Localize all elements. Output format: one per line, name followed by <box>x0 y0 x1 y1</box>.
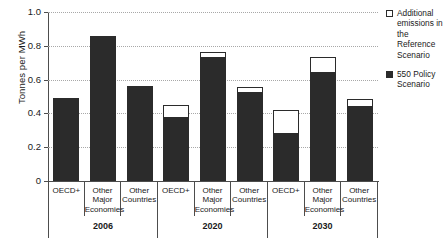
emissions-intensity-chart: Tonnes per MWh 00.20.40.60.81.0 OECD+Oth… <box>0 0 448 238</box>
bar-2020-other-major-economies <box>200 52 226 181</box>
category-label-oecd-: OECD+ <box>268 182 305 216</box>
plot-area: 00.20.40.60.81.0 <box>48 12 378 181</box>
bar-segment-additional <box>163 105 189 119</box>
bar-segment-additional <box>273 110 299 134</box>
bar-2006-oecd- <box>53 98 79 181</box>
category-label-other-countries: Other Countries <box>341 182 378 216</box>
period-label-2020: 2020 <box>158 216 268 238</box>
legend-label: 550 Policy Scenario <box>397 69 448 90</box>
category-label-oecd-: OECD+ <box>158 182 195 216</box>
bar-segment-policy <box>237 93 263 181</box>
bar-segment-policy <box>53 98 79 181</box>
bar-2030-other-major-economies <box>310 57 336 181</box>
bar-segment-policy <box>310 73 336 181</box>
y-tick-label: 0 <box>36 176 41 186</box>
y-tick-label: 1.0 <box>28 7 41 17</box>
bar-segment-policy <box>90 36 116 181</box>
category-label-oecd-: OECD+ <box>48 182 85 216</box>
bar-2006-other-countries <box>127 86 153 181</box>
tick-mark <box>44 147 48 148</box>
category-label-other-major-economies: Other Major Economies <box>85 182 122 216</box>
y-axis-title: Tonnes per MWh <box>16 3 27 133</box>
tick-mark <box>44 12 48 13</box>
bar-segment-policy <box>163 118 189 181</box>
category-label-other-major-economies: Other Major Economies <box>195 182 232 216</box>
bar-segment-additional <box>310 57 336 73</box>
y-tick-label: 0.8 <box>28 41 41 51</box>
bar-segment-policy <box>347 107 373 181</box>
bar-segment-additional <box>200 52 226 59</box>
legend-swatch-icon <box>386 10 393 17</box>
legend-item-additional-emissions: Additional emissions in the Reference Sc… <box>386 8 448 60</box>
bar-2030-other-countries <box>347 99 373 181</box>
chart-legend: Additional emissions in the Reference Sc… <box>386 8 448 99</box>
y-tick-label: 0.4 <box>28 109 41 119</box>
category-label-other-major-economies: Other Major Economies <box>305 182 342 216</box>
bar-2020-other-countries <box>237 87 263 181</box>
legend-item-policy-scenario: 550 Policy Scenario <box>386 69 448 90</box>
y-tick-label: 0.2 <box>28 142 41 152</box>
period-label-2030: 2030 <box>268 216 378 238</box>
gridline <box>48 12 378 13</box>
bar-segment-additional <box>347 99 373 107</box>
tick-mark <box>44 113 48 114</box>
bar-segment-policy <box>200 58 226 181</box>
legend-swatch-icon <box>386 71 393 78</box>
legend-label: Additional emissions in the Reference Sc… <box>397 8 448 60</box>
bar-segment-policy <box>127 86 153 181</box>
category-label-other-countries: Other Countries <box>231 182 268 216</box>
bar-2030-oecd- <box>273 110 299 181</box>
category-axis: OECD+Other Major EconomiesOther Countrie… <box>48 182 379 238</box>
bar-segment-additional <box>237 87 263 93</box>
bar-2020-oecd- <box>163 105 189 181</box>
y-tick-label: 0.6 <box>28 75 41 85</box>
bar-segment-policy <box>273 134 299 181</box>
bar-2006-other-major-economies <box>90 36 116 181</box>
category-label-other-countries: Other Countries <box>121 182 158 216</box>
tick-mark <box>44 46 48 47</box>
tick-mark <box>44 80 48 81</box>
period-label-2006: 2006 <box>48 216 158 238</box>
